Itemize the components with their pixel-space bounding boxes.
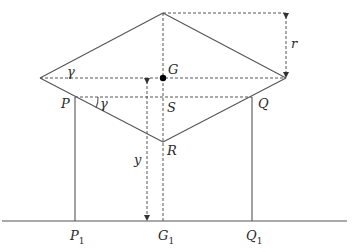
label-Q: Q bbox=[258, 96, 269, 111]
label-R: R bbox=[166, 143, 177, 158]
edge-top-right bbox=[163, 13, 286, 78]
label-gamma-top: γ bbox=[67, 64, 75, 79]
label-y: y bbox=[133, 152, 142, 167]
label-P: P bbox=[60, 96, 70, 111]
label-gamma-P: γ bbox=[100, 96, 108, 111]
label-P1: P1 bbox=[69, 228, 84, 246]
edge-left-top bbox=[40, 13, 163, 78]
label-G: G bbox=[168, 62, 178, 77]
label-S: S bbox=[167, 100, 176, 115]
label-r: r bbox=[291, 36, 298, 51]
angle-arc-P bbox=[96, 97, 98, 108]
geometry-diagram: γ G P γ S Q R r y P1 G1 Q1 bbox=[0, 0, 362, 252]
label-Q1: Q1 bbox=[246, 228, 262, 246]
center-of-gravity-point bbox=[160, 75, 166, 81]
label-G1: G1 bbox=[158, 228, 174, 246]
